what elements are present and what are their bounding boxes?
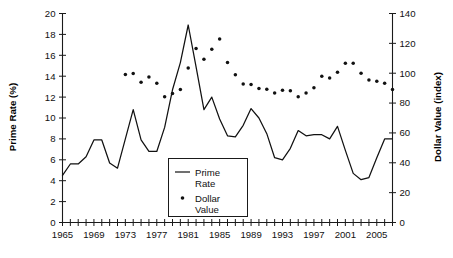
- y-axis-left-tick-label: 12: [45, 92, 56, 103]
- y-axis-left-tick-label: 4: [50, 175, 56, 186]
- dollar-value-point: [320, 75, 324, 79]
- y-axis-left-tick-label: 20: [45, 8, 56, 19]
- x-axis-tick-label: 1969: [83, 229, 104, 240]
- y-axis-left-tick-label: 0: [50, 217, 55, 228]
- dollar-value-point: [391, 88, 395, 92]
- dollar-value-point: [202, 58, 206, 62]
- dollar-value-point: [179, 88, 183, 92]
- legend-label-prime-rate-line2: Rate: [195, 178, 215, 189]
- y-axis-left-tick-label: 6: [50, 154, 55, 165]
- chart-container: 02468101214161820 020406080100120140 196…: [0, 0, 453, 258]
- dollar-value-point: [296, 95, 300, 99]
- dollar-value-point: [375, 79, 379, 83]
- dollar-value-point: [241, 82, 245, 86]
- dollar-value-point: [289, 89, 293, 93]
- y-axis-right-title: Dollar Value (index): [432, 72, 443, 162]
- legend-label-dollar-value-line2: Value: [195, 204, 219, 215]
- dollar-value-point: [171, 92, 175, 96]
- legend-label-prime-rate-line1: Prime: [195, 167, 220, 178]
- x-axis-tick-label: 2001: [335, 229, 356, 240]
- x-axis-tick-label: 1993: [272, 229, 293, 240]
- dollar-value-point: [234, 73, 238, 77]
- x-axis-tick-label: 1977: [146, 229, 167, 240]
- x-axis-tick-label: 1965: [52, 229, 73, 240]
- dollar-value-point: [336, 71, 340, 75]
- dollar-value-point: [155, 82, 159, 86]
- dollar-value-point: [194, 47, 198, 51]
- dollar-value-point: [257, 87, 261, 91]
- y-axis-right-tick-label: 80: [400, 97, 411, 108]
- x-axis-tick-label: 1981: [178, 229, 199, 240]
- y-axis-left-tick-label: 18: [45, 29, 56, 40]
- dollar-value-point: [163, 95, 167, 99]
- dollar-value-point: [249, 83, 253, 87]
- dollar-value-point: [351, 61, 355, 65]
- dollar-value-point: [210, 48, 214, 52]
- y-axis-right-title-text: Dollar Value (index): [432, 72, 443, 162]
- dollar-value-point: [273, 91, 277, 95]
- y-axis-right-tick-label: 120: [400, 38, 416, 49]
- x-axis-tick-label: 2005: [366, 229, 387, 240]
- dollar-value-point: [383, 81, 387, 85]
- y-axis-left-tick-label: 8: [50, 133, 55, 144]
- dollar-value-point: [344, 61, 348, 65]
- y-axis-left-title-text: Prime Rate (%): [7, 83, 18, 151]
- dollar-value-point: [367, 78, 371, 82]
- y-axis-right-tick-label: 100: [400, 68, 416, 79]
- x-axis-tick-label: 1973: [115, 229, 136, 240]
- legend: Prime Rate Dollar Value: [169, 159, 248, 217]
- dollar-value-point: [131, 72, 135, 76]
- y-axis-right-tick-label: 140: [400, 8, 416, 19]
- dollar-value-point: [139, 81, 143, 85]
- x-axis-tick-label: 1985: [209, 229, 230, 240]
- dollar-value-point: [281, 88, 285, 92]
- dollar-value-point: [218, 37, 222, 41]
- y-axis-right-tick-label: 0: [400, 217, 405, 228]
- y-axis-left-title: Prime Rate (%): [7, 83, 18, 151]
- y-axis-right-tick-label: 20: [400, 187, 411, 198]
- y-axis-right-tick-label: 60: [400, 127, 411, 138]
- dollar-value-point: [186, 66, 190, 70]
- x-axis-tick-label: 1989: [240, 229, 261, 240]
- dollar-value-point: [226, 61, 230, 65]
- y-axis-left-tick-label: 2: [50, 196, 55, 207]
- y-axis-left-tick-label: 14: [45, 71, 56, 82]
- dollar-value-point: [304, 91, 308, 95]
- y-axis-right-tick-label: 40: [400, 157, 411, 168]
- y-axis-left-tick-label: 16: [45, 50, 56, 61]
- dollar-value-point: [328, 76, 332, 80]
- dollar-value-point: [312, 86, 316, 90]
- dollar-value-point: [265, 88, 269, 92]
- dollar-value-point: [124, 73, 128, 77]
- prime-rate-dollar-value-chart: 02468101214161820 020406080100120140 196…: [0, 0, 453, 258]
- legend-dot-swatch-icon: [181, 196, 185, 200]
- y-axis-left-tick-label: 10: [45, 112, 56, 123]
- x-axis-tick-label: 1997: [303, 229, 324, 240]
- dollar-value-point: [147, 75, 151, 79]
- dollar-value-point: [359, 72, 363, 76]
- legend-label-dollar-value-line1: Dollar: [195, 193, 221, 204]
